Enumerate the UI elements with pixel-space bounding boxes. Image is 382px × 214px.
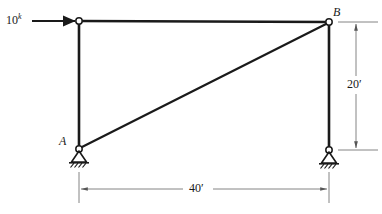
pin-support-right <box>319 152 339 169</box>
member-top-beam <box>79 21 329 22</box>
pin-support-left <box>69 151 89 168</box>
dimension-label-vertical: 20′ <box>347 78 362 90</box>
dimension-label-horizontal: 40′ <box>186 182 207 194</box>
node-label-b: B <box>333 6 340 18</box>
member-diagonal-brace <box>80 23 328 148</box>
joint-top-left <box>76 18 82 24</box>
pin-support-left-hatching <box>71 163 87 167</box>
pin-support-right-hatching <box>321 164 337 168</box>
structural-frame-figure: 10k A B 20′ 40′ <box>0 0 382 214</box>
joint-top-right-b <box>326 19 332 25</box>
frame-members <box>79 21 329 150</box>
node-label-a: A <box>59 135 66 147</box>
load-magnitude-value: 10 <box>6 13 18 27</box>
load-magnitude-label: 10k <box>6 14 22 26</box>
load-unit-superscript: k <box>18 12 22 21</box>
